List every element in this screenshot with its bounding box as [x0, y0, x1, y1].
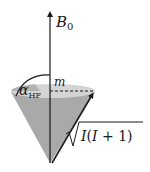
- m-label: m: [54, 75, 65, 89]
- magnitude-label: I(I + 1): [80, 128, 133, 144]
- b0-label: B0: [55, 13, 73, 32]
- spin-precession-diagram: B0 m αHF I(I + 1): [0, 0, 150, 172]
